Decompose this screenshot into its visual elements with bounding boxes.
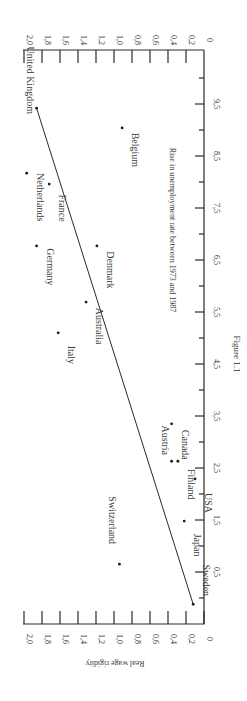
point-switzerland	[118, 563, 121, 566]
label-austria: Austria	[160, 426, 171, 456]
y-tick-label-top: 1,0	[115, 35, 124, 45]
point-france	[48, 183, 51, 186]
y-tick-label-top: 2,0	[25, 35, 34, 45]
label-denmark: Denmark	[105, 251, 116, 288]
y-tick-label-bottom: 0	[205, 637, 214, 641]
point-belgium	[121, 127, 124, 130]
point-austria	[170, 460, 173, 463]
y-tick-label-top: 0	[205, 38, 214, 42]
y-tick-label-bottom: 0,6	[151, 634, 160, 644]
y-tick-label-top: 0,6	[151, 35, 160, 45]
y-tick-label-bottom: 1,0	[115, 634, 124, 644]
point-denmark	[96, 245, 99, 248]
x-tick-label: 3,5	[212, 411, 221, 421]
point-japan	[183, 520, 186, 523]
label-italy: Italy	[66, 346, 77, 364]
label-france: France	[57, 194, 68, 222]
y-tick-label-top: 0,8	[133, 35, 142, 45]
label-usa: USA	[203, 493, 214, 514]
x-tick-label: 1,5	[212, 515, 221, 525]
y-tick-label-top: 1,8	[43, 35, 52, 45]
x-tick-label: 0,5	[212, 567, 221, 577]
y-tick-label-bottom: 0,4	[169, 634, 178, 644]
point-finland	[177, 460, 180, 463]
label-japan: Japan	[192, 534, 203, 557]
x-axis-title: Rise in unemployment rate between 1973 a…	[168, 148, 177, 313]
label-canada: Canada	[180, 430, 191, 461]
label-netherlands: Netherlands	[35, 173, 46, 221]
y-tick-label-top: 1,2	[97, 35, 106, 45]
point-labels: SwedenSwitzerlandJapanUSAFinlandAustriaC…	[25, 46, 214, 596]
x-tick-label: 2,5	[212, 463, 221, 473]
point-sweden	[192, 603, 195, 606]
label-switzerland: Switzerland	[107, 496, 118, 544]
y-tick-label-bottom: 1,4	[79, 634, 88, 644]
y-tick-label-top: 1,6	[61, 35, 70, 45]
point-germany	[35, 245, 38, 248]
point-netherlands	[25, 172, 28, 175]
x-tick-label: 5,5	[212, 307, 221, 317]
point-australia	[85, 301, 88, 304]
axes: 0,51,52,53,54,55,56,57,58,59,5000,20,20,…	[23, 35, 221, 644]
x-tick-label: 8,5	[212, 151, 221, 161]
figure-caption: Figure 1.1	[232, 336, 242, 373]
x-tick-label: 7,5	[212, 203, 221, 213]
x-tick-label: 6,5	[212, 255, 221, 265]
scatter-chart: 0,51,52,53,54,55,56,57,58,59,5000,20,20,…	[0, 0, 247, 701]
label-united-kingdom: United Kingdom	[25, 46, 36, 114]
x-tick-label: 9,5	[212, 99, 221, 109]
y-axis-title: Real wage rigidity	[85, 659, 144, 668]
label-germany: Germany	[45, 248, 56, 285]
y-tick-label-bottom: 0,8	[133, 634, 142, 644]
y-tick-label-bottom: 1,8	[43, 634, 52, 644]
y-tick-label-top: 0,2	[187, 35, 196, 45]
y-tick-label-bottom: 1,6	[61, 634, 70, 644]
x-tick-label: 4,5	[212, 359, 221, 369]
y-tick-label-top: 0,4	[169, 35, 178, 45]
label-belgium: Belgium	[130, 133, 141, 168]
y-tick-label-bottom: 0,2	[187, 634, 196, 644]
y-tick-label-top: 1,4	[79, 35, 88, 45]
y-tick-label-bottom: 1,2	[97, 634, 106, 644]
y-tick-label-bottom: 2,0	[25, 634, 34, 644]
point-italy	[57, 331, 60, 334]
label-finland: Finland	[186, 469, 197, 500]
chart-canvas: 0,51,52,53,54,55,56,57,58,59,5000,20,20,…	[0, 0, 247, 701]
label-australia: Australia	[94, 308, 105, 345]
label-sweden: Sweden	[201, 564, 212, 596]
